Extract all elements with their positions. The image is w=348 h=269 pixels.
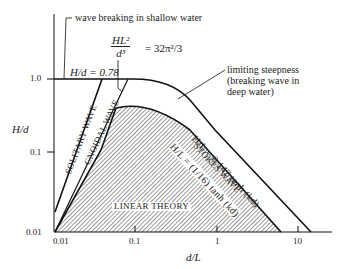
- y-tick-label-0.01: 0.01: [26, 228, 42, 237]
- formula-denominator: d³: [111, 47, 130, 59]
- ursell-formula-fraction: HL² d³: [111, 34, 130, 59]
- x-axis-title: d/L: [186, 252, 201, 263]
- y-axis-title: H/d: [12, 124, 29, 135]
- wave-theory-diagram: [0, 0, 348, 269]
- x-tick-label-1: 1: [215, 237, 220, 246]
- y-tick-label-1: 1.0: [30, 74, 41, 83]
- y-tick-label-0.1: 0.1: [30, 148, 41, 157]
- limiting-steepness-line1: limiting steepness: [227, 65, 299, 75]
- limiting-steepness-leader: [178, 70, 225, 99]
- x-tick-label-0.01: 0.01: [53, 237, 69, 246]
- shallow-breaking-label: wave breaking in shallow water: [75, 13, 202, 23]
- x-tick-label-0.1: 0.1: [129, 237, 140, 246]
- x-tick-label-10: 10: [293, 237, 302, 246]
- limiting-steepness-line2: (breaking wave in: [227, 76, 299, 86]
- hd-limit-label: H/d = 0.78: [70, 67, 119, 78]
- formula-rhs: = 32π²/3: [145, 43, 182, 54]
- linear-theory-label: LINEAR THEORY: [112, 202, 191, 211]
- limiting-steepness-line3: deep water): [227, 87, 274, 97]
- formula-numerator: HL²: [111, 34, 130, 47]
